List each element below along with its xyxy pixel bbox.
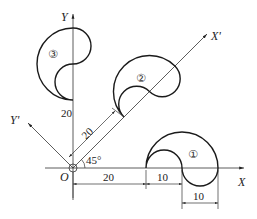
shape-2-label: ② bbox=[136, 72, 146, 85]
coordinate-transform-diagram: 20 20 20 10 10 Y X X' Y' O 45° ③ ② ① bbox=[0, 0, 257, 219]
svg-text:20: 20 bbox=[103, 171, 115, 183]
y-axis-label: Y bbox=[61, 10, 69, 24]
dimension-shape3: 20 bbox=[61, 107, 73, 119]
svg-text:20: 20 bbox=[61, 107, 73, 119]
svg-text:20: 20 bbox=[79, 125, 96, 142]
svg-text:10: 10 bbox=[193, 190, 205, 202]
dimension-shape1: 20 10 10 bbox=[73, 170, 218, 209]
dimension-shape2: 20 bbox=[69, 108, 124, 157]
svg-text:10: 10 bbox=[157, 171, 169, 183]
shape-1-label: ① bbox=[188, 148, 198, 161]
shape-3 bbox=[37, 28, 91, 100]
shape-3-label: ③ bbox=[48, 48, 58, 61]
y-prime-label: Y' bbox=[10, 113, 20, 127]
x-prime-axis bbox=[73, 34, 207, 168]
x-axis-label: X bbox=[237, 175, 246, 189]
x-prime-label: X' bbox=[210, 29, 221, 43]
angle-arc bbox=[82, 160, 86, 169]
origin-label: O bbox=[60, 170, 69, 184]
y-prime-axis bbox=[28, 123, 73, 168]
shape-2 bbox=[99, 41, 188, 130]
angle-label: 45° bbox=[86, 154, 101, 166]
